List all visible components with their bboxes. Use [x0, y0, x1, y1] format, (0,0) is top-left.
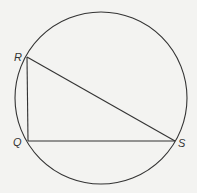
label-r: R [14, 51, 22, 63]
circle [15, 12, 187, 184]
segment-rq [27, 57, 28, 141]
segment-rs [27, 57, 175, 141]
label-s: S [178, 137, 186, 149]
label-q: Q [13, 136, 22, 148]
geometry-diagram: R Q S [0, 0, 197, 193]
